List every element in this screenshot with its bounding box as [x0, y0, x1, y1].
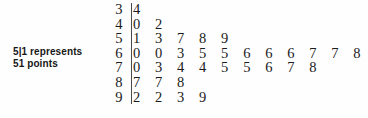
stem-value: 7 — [112, 60, 126, 75]
leaf-value: 2 — [148, 17, 170, 32]
leaf-value: 0 — [126, 17, 148, 32]
leaf-value: 6 — [236, 46, 258, 61]
leaf-value: 2 — [126, 90, 148, 105]
stem-leaf-table: 3440251378960035566677870344556788778922… — [112, 2, 368, 104]
leaf-empty — [346, 17, 368, 32]
key-line-points: 51 points — [13, 58, 82, 70]
leaf-value: 3 — [148, 60, 170, 75]
leaf-value: 4 — [170, 60, 192, 75]
stem-value: 6 — [112, 46, 126, 61]
leaf-value: 1 — [126, 31, 148, 46]
leaf-value: 9 — [214, 31, 236, 46]
leaf-empty — [192, 17, 214, 32]
leaf-empty — [170, 17, 192, 32]
leaf-value: 8 — [192, 31, 214, 46]
leaf-value: 3 — [148, 31, 170, 46]
leaf-empty — [302, 31, 324, 46]
leaf-empty — [258, 75, 280, 90]
leaf-empty — [236, 31, 258, 46]
leaf-value: 8 — [170, 75, 192, 90]
leaf-empty — [280, 31, 302, 46]
plot-key-legend: 5|1 represents 51 points — [13, 46, 82, 71]
leaf-empty — [302, 2, 324, 17]
stem-value: 4 — [112, 17, 126, 32]
leaf-value: 8 — [302, 60, 324, 75]
leaf-empty — [302, 90, 324, 105]
leaf-value: 5 — [192, 46, 214, 61]
leaf-empty — [346, 90, 368, 105]
stem-and-leaf-plot: 5|1 represents 51 points 344025137896003… — [0, 0, 368, 118]
leaf-value: 3 — [170, 46, 192, 61]
stem-leaf-row: 513789 — [112, 31, 368, 46]
leaf-value: 7 — [126, 75, 148, 90]
leaf-empty — [324, 17, 346, 32]
leaf-value: 6 — [258, 60, 280, 75]
leaf-value: 8 — [346, 46, 368, 61]
leaf-value: 9 — [192, 90, 214, 105]
leaf-value: 4 — [126, 2, 148, 17]
leaf-empty — [214, 17, 236, 32]
leaf-empty — [192, 75, 214, 90]
key-line-represents: 5|1 represents — [13, 46, 82, 58]
stem-leaf-row: 34 — [112, 2, 368, 17]
stem-leaf-row: 8778 — [112, 75, 368, 90]
leaf-empty — [258, 17, 280, 32]
leaf-value: 4 — [192, 60, 214, 75]
stem-leaf-row: 600355666778 — [112, 46, 368, 61]
leaf-empty — [324, 60, 346, 75]
leaf-empty — [214, 2, 236, 17]
leaf-empty — [170, 2, 192, 17]
leaf-empty — [324, 31, 346, 46]
leaf-empty — [236, 75, 258, 90]
leaf-empty — [346, 2, 368, 17]
leaf-empty — [280, 17, 302, 32]
leaf-value: 7 — [280, 60, 302, 75]
leaf-value: 0 — [126, 60, 148, 75]
leaf-empty — [214, 75, 236, 90]
leaf-empty — [258, 90, 280, 105]
stem-leaf-row: 7034455678 — [112, 60, 368, 75]
leaf-empty — [236, 17, 258, 32]
leaf-empty — [148, 2, 170, 17]
leaf-empty — [324, 2, 346, 17]
leaf-value: 5 — [214, 46, 236, 61]
leaf-value: 0 — [126, 46, 148, 61]
leaf-empty — [280, 75, 302, 90]
leaf-value: 5 — [214, 60, 236, 75]
leaf-empty — [324, 75, 346, 90]
leaf-value: 3 — [170, 90, 192, 105]
leaf-empty — [258, 2, 280, 17]
leaf-value: 2 — [148, 90, 170, 105]
leaf-empty — [324, 90, 346, 105]
leaf-empty — [346, 75, 368, 90]
leaf-value: 7 — [324, 46, 346, 61]
leaf-empty — [280, 2, 302, 17]
leaf-empty — [214, 90, 236, 105]
leaf-value: 6 — [258, 46, 280, 61]
leaf-value: 5 — [236, 60, 258, 75]
stem-leaf-row: 92239 — [112, 90, 368, 105]
leaf-empty — [346, 31, 368, 46]
stem-leaf-body: 3440251378960035566677870344556788778922… — [112, 2, 368, 104]
leaf-value: 6 — [280, 46, 302, 61]
leaf-empty — [302, 17, 324, 32]
leaf-empty — [236, 90, 258, 105]
leaf-value: 7 — [170, 31, 192, 46]
leaf-value: 7 — [148, 75, 170, 90]
stem-value: 3 — [112, 2, 126, 17]
stem-value: 9 — [112, 90, 126, 105]
leaf-empty — [236, 2, 258, 17]
leaf-empty — [346, 60, 368, 75]
leaf-empty — [192, 2, 214, 17]
leaf-empty — [258, 31, 280, 46]
leaf-value: 0 — [148, 46, 170, 61]
stem-leaf-row: 402 — [112, 17, 368, 32]
stem-value: 8 — [112, 75, 126, 90]
leaf-empty — [280, 90, 302, 105]
stem-value: 5 — [112, 31, 126, 46]
leaf-empty — [302, 75, 324, 90]
leaf-value: 7 — [302, 46, 324, 61]
